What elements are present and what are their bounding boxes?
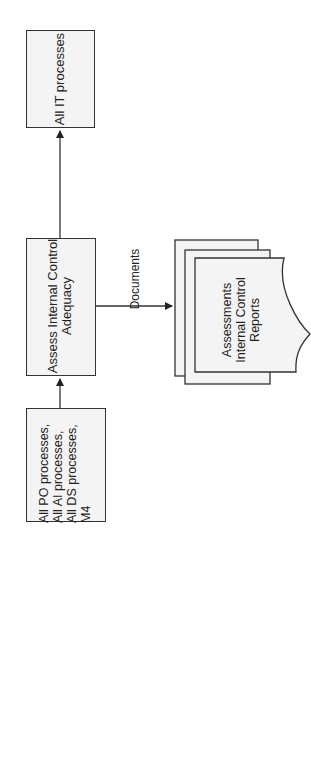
process-node-label: Assess Internal Control Adequacy	[46, 237, 76, 375]
output-node-all-it-processes: All IT processes	[26, 30, 95, 128]
output-node-label: All IT processes	[53, 30, 67, 128]
process-node-assess-internal-control: Assess Internal Control Adequacy	[26, 238, 96, 376]
diagram-canvas: All IT processes Assess Internal Control…	[0, 0, 311, 765]
input-node-label: All PO processes, All AI processes, All …	[37, 407, 95, 523]
input-node-process-groups: All PO processes, All AI processes, All …	[26, 408, 106, 522]
documents-node-label: Assessments Internal Control Reports	[220, 270, 264, 370]
edge-label-documents: Documents	[128, 244, 142, 314]
